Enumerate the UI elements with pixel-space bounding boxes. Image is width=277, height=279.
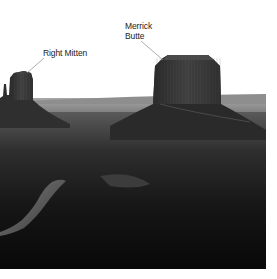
right-mitten-leader-line (27, 58, 44, 73)
right-mitten-label-text: Right Mitten (43, 48, 87, 58)
annotated-photo: Right Mitten Merrick Butte (0, 0, 277, 279)
merrick-butte-label-line1: Merrick (125, 21, 152, 31)
merrick-butte-label-line2: Butte (125, 31, 152, 41)
landscape-photo (0, 0, 277, 279)
right-mitten-label: Right Mitten (43, 48, 87, 58)
merrick-butte-label: Merrick Butte (125, 21, 152, 41)
merrick-butte-leader-line (141, 41, 163, 60)
